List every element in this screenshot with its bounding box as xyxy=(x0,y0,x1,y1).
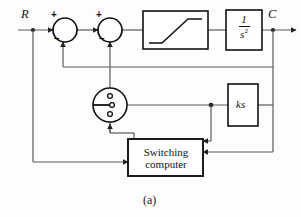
second-summer-minus-sign: − xyxy=(99,34,105,44)
switch-contact-bottom xyxy=(108,112,113,117)
plant-denominator-exponent: 2 xyxy=(244,27,248,35)
input-signal-label: R xyxy=(21,8,29,21)
switching-computer-line1: Switching xyxy=(122,146,210,158)
output-signal-label: C xyxy=(268,8,276,21)
plant-numerator: 1 xyxy=(234,14,254,26)
switch-contact-center xyxy=(110,103,115,108)
switching-computer-label: Switching computer xyxy=(122,146,210,171)
rate-gain-label: ks xyxy=(236,99,245,110)
switching-computer-line2: computer xyxy=(122,158,210,170)
plant-transfer-function: 1 s2 xyxy=(234,14,254,40)
plant-denominator: s2 xyxy=(234,28,254,40)
diagram-wiring xyxy=(0,0,301,217)
block-diagram-figure: R C + − + − 1 s2 ks Switching computer (… xyxy=(0,0,301,217)
first-summer-minus-sign: − xyxy=(54,34,60,44)
second-summer-plus-sign: + xyxy=(96,10,102,20)
switch-contact-top xyxy=(108,94,113,99)
figure-caption: (a) xyxy=(143,194,156,206)
first-summer-plus-sign: + xyxy=(51,10,57,20)
